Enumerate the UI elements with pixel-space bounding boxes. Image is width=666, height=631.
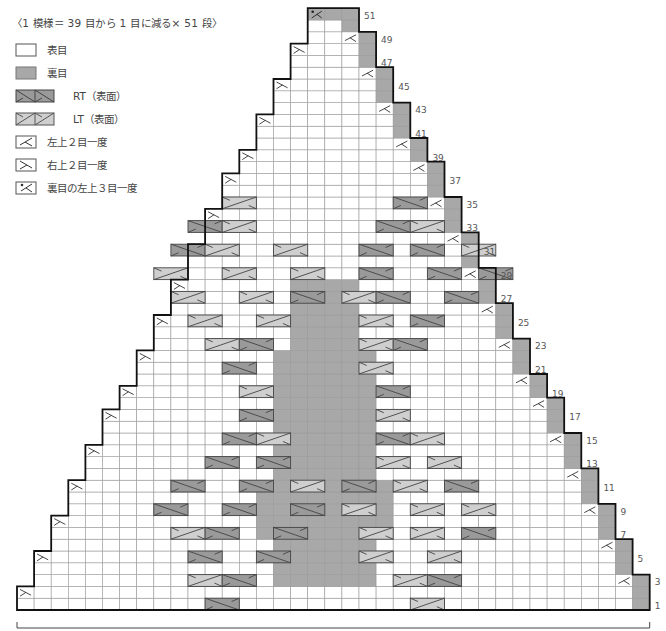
row-label: 19	[552, 389, 564, 399]
row-label: 29	[501, 271, 513, 281]
row-label: 47	[381, 58, 392, 68]
row-label: 35	[467, 200, 478, 210]
row-label: 11	[603, 483, 614, 493]
row-label: 25	[518, 318, 529, 328]
row-label: 23	[535, 341, 546, 351]
row-label: 39	[432, 153, 444, 163]
row-label: 5	[638, 554, 644, 564]
row-label: 3	[655, 577, 661, 587]
row-label: 51	[364, 11, 375, 21]
row-label: 33	[467, 223, 478, 233]
row-label: 21	[535, 365, 546, 375]
row-label: 17	[569, 412, 580, 422]
row-label: 43	[415, 105, 426, 115]
row-label: 37	[450, 176, 461, 186]
row-label: 13	[586, 459, 597, 469]
row-label: 1	[655, 601, 661, 611]
row-label: 49	[381, 35, 393, 45]
row-label: 15	[586, 436, 597, 446]
knitting-chart: 1357911131517192123252729313335373941434…	[0, 0, 666, 631]
row-label: 45	[398, 82, 409, 92]
row-label: 7	[621, 530, 627, 540]
row-label: 31	[484, 247, 495, 257]
row-label: 41	[415, 129, 426, 139]
row-label: 27	[501, 294, 512, 304]
row-label: 9	[621, 507, 627, 517]
